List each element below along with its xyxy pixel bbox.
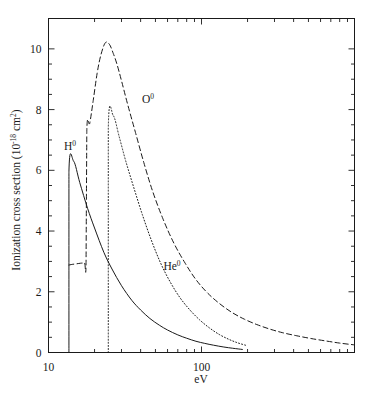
data-curves <box>69 42 355 352</box>
curve-label-h0-main: H <box>64 140 72 152</box>
x-tick-label: 10 <box>43 361 55 373</box>
axis-tick-labels: 101000246810 <box>30 43 210 373</box>
y-tick-label: 6 <box>36 164 42 176</box>
axis-ticks <box>49 19 355 353</box>
curve-label-he0-main: He <box>163 260 176 272</box>
curve-label-o0-exponent: 0 <box>150 92 154 101</box>
x-axis-title: eV <box>194 373 208 385</box>
curve-h0 <box>69 154 242 353</box>
y-axis-title-close: ) <box>10 109 23 113</box>
curve-label-o0: O0 <box>142 92 154 106</box>
y-axis-title-main: Ionization cross section (10 <box>10 144 23 271</box>
y-axis-title: Ionization cross section (10-18 cm2) <box>9 109 23 270</box>
curve-label-o0-main: O <box>142 93 150 105</box>
curve-label-h0-exponent: 0 <box>72 139 76 148</box>
chart-svg: Ionization cross section (10-18 cm2) eV … <box>0 0 374 403</box>
y-tick-label: 4 <box>36 225 42 237</box>
y-tick-label: 8 <box>36 104 42 116</box>
ionization-cross-section-chart: Ionization cross section (10-18 cm2) eV … <box>0 0 374 403</box>
y-axis-title-exponent: -18 <box>9 134 18 144</box>
curve-he0 <box>108 106 247 353</box>
y-tick-label: 10 <box>30 43 42 55</box>
curve-o0 <box>69 42 355 345</box>
curve-label-he0: He0 <box>163 259 180 273</box>
y-tick-label: 2 <box>36 286 42 298</box>
plot-frame <box>49 19 355 353</box>
y-axis-title-tail: cm <box>10 117 22 134</box>
x-tick-label: 100 <box>193 361 211 373</box>
y-tick-label: 0 <box>36 347 42 359</box>
svg-text:Ionization cross section (10-1: Ionization cross section (10-18 cm2) <box>9 109 23 270</box>
curve-label-he0-exponent: 0 <box>177 259 181 268</box>
x-axis-title-label: eV <box>194 373 208 385</box>
curve-annotations: H0He0O0 <box>64 92 181 273</box>
curve-label-h0: H0 <box>64 139 76 153</box>
